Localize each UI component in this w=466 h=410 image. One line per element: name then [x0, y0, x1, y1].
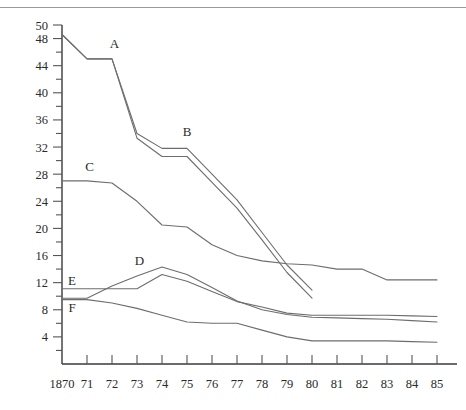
x-axis-tick-label: 79 [281, 377, 294, 391]
x-axis-tick-label: 73 [131, 377, 144, 391]
y-axis-tick-label: 36 [36, 113, 49, 127]
y-axis-tick-label: 44 [36, 59, 49, 73]
series-label-e: E [68, 273, 76, 288]
x-axis: 1870717273747576777879808182838485 [50, 355, 458, 391]
x-axis-tick-label: 85 [431, 377, 444, 391]
series-label-b: B [183, 124, 192, 139]
x-axis-tick-label: 75 [181, 377, 194, 391]
series-line-d [62, 267, 437, 322]
series-line-e [62, 275, 437, 317]
line-chart: 481216202428323640444850 187071727374757… [0, 0, 466, 410]
x-axis-tick-label: 1870 [50, 377, 75, 391]
y-axis-tick-label: 32 [36, 141, 49, 155]
x-axis-tick-label: 72 [106, 377, 119, 391]
x-axis-tick-label: 77 [231, 377, 244, 391]
y-axis-tick-label: 12 [36, 276, 49, 290]
x-axis-tick-label: 81 [331, 377, 344, 391]
chart-svg-canvas: 481216202428323640444850 187071727374757… [0, 0, 466, 410]
series-line-a [62, 35, 312, 291]
series-label-a: A [110, 36, 120, 51]
series-label-f: F [68, 300, 75, 315]
series-line-b [62, 35, 312, 299]
series-line-f [62, 300, 437, 343]
y-axis-tick-label: 48 [36, 32, 49, 46]
series-line-c [62, 181, 437, 280]
y-axis-tick-label: 28 [36, 168, 49, 182]
y-axis-tick-label: 40 [36, 86, 49, 100]
y-axis-tick-label: 4 [42, 330, 49, 344]
y-axis: 481216202428323640444850 [36, 19, 63, 365]
x-axis-tick-label: 80 [306, 377, 319, 391]
y-axis-tick-label: 50 [36, 19, 49, 33]
x-axis-tick-label: 82 [356, 377, 369, 391]
x-axis-tick-label: 78 [256, 377, 269, 391]
y-axis-tick-label: 20 [36, 222, 49, 236]
series-label-c: C [85, 159, 94, 174]
series-lines [62, 35, 437, 343]
y-axis-tick-label: 16 [36, 249, 49, 263]
series-labels: ABCDEF [68, 36, 192, 315]
x-axis-tick-label: 83 [381, 377, 394, 391]
series-label-d: D [135, 253, 144, 268]
x-axis-tick-label: 74 [156, 377, 169, 391]
x-axis-tick-label: 71 [81, 377, 94, 391]
x-axis-tick-label: 84 [406, 377, 419, 391]
y-axis-tick-label: 8 [42, 303, 48, 317]
y-axis-tick-label: 24 [36, 195, 49, 209]
x-axis-tick-label: 76 [206, 377, 219, 391]
